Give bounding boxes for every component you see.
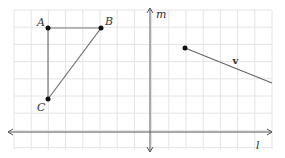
axis-label-m: m	[156, 8, 166, 21]
point-b	[99, 26, 104, 31]
triangle-sides	[48, 28, 101, 99]
axis-label-l: l	[256, 139, 260, 152]
vector-label-v: v	[232, 55, 240, 66]
vector-tail-point	[183, 46, 188, 51]
point-label-a: A	[36, 16, 45, 29]
point-label-c: C	[37, 101, 46, 114]
point-c	[46, 97, 51, 102]
triangle-abc: ABC	[36, 15, 113, 114]
geometry-diagram: ml ABC v	[0, 0, 285, 158]
vector-v: v	[183, 46, 273, 84]
vector-line	[185, 48, 272, 83]
diagram-canvas: ml ABC v	[0, 0, 285, 158]
grid-lines	[14, 10, 272, 150]
point-a	[46, 26, 51, 31]
point-label-b: B	[104, 15, 113, 28]
